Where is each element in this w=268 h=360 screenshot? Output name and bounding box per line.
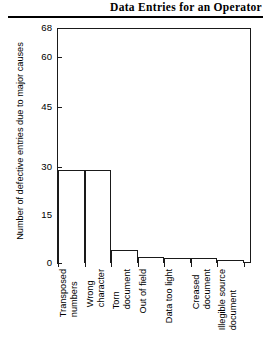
x-axis-label-line: Illegible source <box>217 269 228 330</box>
bar-series <box>57 28 251 263</box>
y-tick-label: 45 <box>0 101 52 112</box>
x-axis-label-line: document <box>122 269 133 309</box>
x-axis-label-line: Out of field <box>138 269 149 313</box>
y-tick-label: 30 <box>0 161 52 172</box>
x-axis-label: Transposednumbers <box>58 269 85 360</box>
x-axis-label-line: Wrong <box>85 280 96 307</box>
x-tick-mark <box>244 263 245 267</box>
bar <box>85 170 112 263</box>
x-axis-labels: TransposednumbersWrongcharacterTorndocum… <box>57 263 251 360</box>
bar <box>111 250 138 263</box>
x-axis-label-line: numbers <box>69 281 80 317</box>
x-axis-label: Out of field <box>138 269 165 360</box>
x-tick-mark <box>217 263 218 267</box>
x-axis-label: Torndocument <box>111 269 138 360</box>
chart-figure: Data Entries for an Operator Number of d… <box>0 0 268 360</box>
x-axis-label-line: Data too light <box>164 269 175 323</box>
y-tick-label: 0 <box>0 257 52 268</box>
x-axis-label: Wrongcharacter <box>85 269 112 360</box>
x-tick-mark <box>111 263 112 267</box>
x-tick-mark <box>58 263 59 267</box>
x-axis-label: Data too light <box>164 269 191 360</box>
x-axis-label-line: document <box>202 269 213 309</box>
x-axis-label-line: Creased <box>191 275 202 310</box>
x-tick-mark <box>191 263 192 267</box>
x-axis-label-line: Torn <box>111 291 122 309</box>
x-tick-mark <box>164 263 165 267</box>
page-title: Data Entries for an Operator <box>0 0 262 14</box>
x-axis-label: Illegible sourcedocument <box>217 269 244 360</box>
x-tick-mark <box>85 263 86 267</box>
y-tick-label: 68 <box>0 22 52 33</box>
x-tick-mark <box>138 263 139 267</box>
x-axis-label-line: Transposed <box>58 269 69 317</box>
x-axis-label-line: character <box>96 269 107 307</box>
x-axis-label-line: document <box>228 290 239 330</box>
y-tick-label: 15 <box>0 209 52 220</box>
title-divider <box>8 16 263 18</box>
x-axis-label: Creaseddocument <box>191 269 218 360</box>
y-tick-label: 60 <box>0 51 52 62</box>
bar <box>58 170 85 263</box>
